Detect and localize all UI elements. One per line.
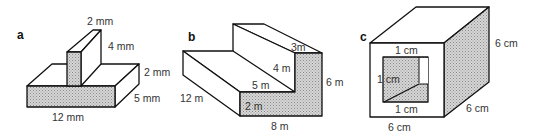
- panel-label-c: c: [360, 30, 367, 44]
- label-6m: 6 m: [326, 76, 344, 88]
- label-2mm-top: 2 mm: [87, 15, 114, 27]
- label-6cm-height: 6 cm: [495, 37, 518, 49]
- diagram-canvas: a 2 mm 4 mm 2 mm 5 mm 12 mm b 3m 4 m 5 m…: [0, 0, 534, 136]
- panel-label-b: b: [188, 30, 195, 44]
- label-1cm-top: 1 cm: [395, 44, 418, 56]
- label-1cm-side: 1 cm: [377, 73, 400, 85]
- upright-front-face: [67, 52, 81, 86]
- label-3m: 3m: [291, 41, 306, 53]
- label-6cm-depth: 6 cm: [466, 102, 489, 114]
- label-5mm: 5 mm: [134, 92, 161, 104]
- panel-label-a: a: [17, 28, 24, 42]
- label-1cm-bottom: 1 cm: [395, 103, 418, 115]
- base-front-face: [27, 86, 115, 107]
- hole-light-area: [419, 58, 428, 84]
- label-12m: 12 m: [180, 92, 204, 104]
- figure-b-step-shape: b 3m 4 m 5 m 6 m 12 m 2 m 8 m: [180, 24, 344, 132]
- figure-a-t-shape: a 2 mm 4 mm 2 mm 5 mm 12 mm: [17, 15, 171, 123]
- figure-c-hollow-cube: c 1 cm 1 cm 1 cm 6 cm 6 cm 6 cm: [360, 7, 518, 133]
- label-6cm-width: 6 cm: [388, 121, 411, 133]
- label-12mm: 12 mm: [52, 111, 84, 123]
- label-2m: 2 m: [245, 100, 263, 112]
- label-5m: 5 m: [252, 79, 270, 91]
- label-4m: 4 m: [273, 62, 291, 74]
- label-4mm: 4 mm: [108, 40, 135, 52]
- label-8m: 8 m: [271, 120, 289, 132]
- label-2mm-base: 2 mm: [144, 66, 171, 78]
